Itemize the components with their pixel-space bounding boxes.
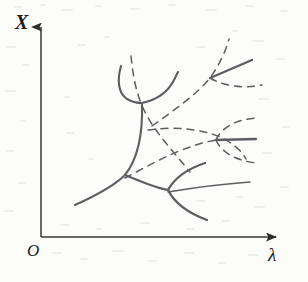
curve-right-upper-unstable-arc [210, 78, 262, 87]
curve-right-middle-unstable-lower-arc [216, 140, 257, 163]
curve-upper-right-stable-arm [142, 72, 178, 103]
bifurcation-diagram [0, 0, 308, 282]
origin-label: O [27, 242, 39, 259]
curve-unstable-fan-upper [152, 39, 229, 126]
curve-right-middle-stable-line [216, 139, 256, 140]
curve-lower-right-lower-arm [168, 190, 207, 220]
curve-right-upper-stable-line [210, 60, 252, 78]
y-axis-label: X [15, 12, 28, 32]
curve-upper-unstable [131, 56, 190, 172]
curve-lower-right-thin-continuation [168, 182, 250, 192]
curve-right-middle-unstable-upper-arc [216, 118, 257, 140]
x-axis-label: λ [268, 245, 276, 264]
curve-unstable-fan-middle [148, 128, 246, 159]
curve-lower-right-upper-arm [168, 163, 205, 190]
curve-trunk-stable [75, 103, 142, 205]
curve-lower-left-stable-arm [125, 175, 168, 190]
figure-page: X λ O [0, 0, 308, 282]
